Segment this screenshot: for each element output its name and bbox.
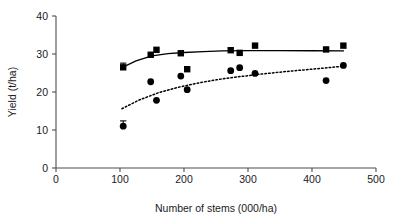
data-point-circle <box>153 97 160 104</box>
y-axis-title: Yield (t/ha) <box>6 67 18 117</box>
data-point-square <box>153 47 159 53</box>
data-point-circle <box>323 77 330 84</box>
chart-canvas: 0100200300400500010203040Number of stems… <box>0 0 398 218</box>
x-tick-label: 300 <box>239 173 257 185</box>
data-point-circle <box>120 123 127 130</box>
data-point-circle <box>147 78 154 85</box>
x-tick-label: 200 <box>175 173 193 185</box>
data-point-square <box>340 42 346 48</box>
chart-figure: 0100200300400500010203040Number of stems… <box>0 0 398 218</box>
data-point-square <box>120 64 126 70</box>
data-point-circle <box>236 64 243 71</box>
data-point-square <box>236 50 242 56</box>
x-tick-label: 0 <box>53 173 59 185</box>
data-point-circle <box>252 70 259 77</box>
x-tick-label: 400 <box>303 173 321 185</box>
data-point-circle <box>227 67 234 74</box>
data-point-square <box>323 46 329 52</box>
y-tick-label: 0 <box>42 162 48 174</box>
data-point-square <box>148 52 154 58</box>
x-tick-label: 500 <box>367 173 385 185</box>
data-point-circle <box>177 73 184 80</box>
y-tick-label: 10 <box>36 124 48 136</box>
data-point-square <box>252 42 258 48</box>
y-tick-label: 40 <box>36 10 48 22</box>
data-point-square <box>228 47 234 53</box>
data-point-square <box>178 50 184 56</box>
x-axis-title: Number of stems (000/ha) <box>155 202 277 214</box>
x-tick-label: 100 <box>111 173 129 185</box>
data-point-circle <box>184 86 191 93</box>
y-tick-label: 20 <box>36 86 48 98</box>
y-tick-label: 30 <box>36 48 48 60</box>
data-point-square <box>184 66 190 72</box>
data-point-circle <box>340 62 347 69</box>
